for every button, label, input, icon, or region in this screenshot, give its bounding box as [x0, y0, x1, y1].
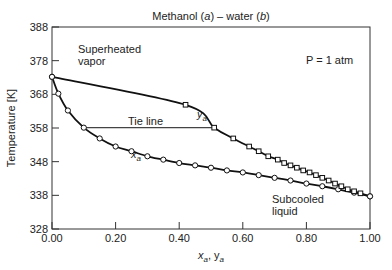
data-point-square — [212, 125, 217, 130]
data-point-circle — [320, 184, 325, 189]
data-point-square — [320, 176, 325, 181]
data-point-circle — [177, 160, 182, 165]
data-point-square — [339, 184, 344, 189]
data-point-square — [314, 173, 319, 178]
y-axis: 328338348358368378388 — [30, 21, 59, 235]
data-point-circle — [288, 178, 293, 183]
x-tick-label: 0.40 — [168, 232, 189, 244]
x-tick-label: 0.20 — [105, 232, 126, 244]
data-point-circle — [81, 125, 86, 130]
tie-line-label: Tie line — [128, 115, 163, 127]
x-tick-label: 1.00 — [359, 232, 380, 244]
data-point-circle — [304, 181, 309, 186]
data-point-square — [295, 165, 300, 170]
data-point-square — [301, 168, 306, 173]
pressure-label: P = 1 atm — [306, 54, 353, 66]
data-point-square — [358, 191, 363, 196]
data-point-circle — [272, 175, 277, 180]
data-point-square — [183, 102, 188, 107]
data-point-square — [247, 144, 252, 149]
y-tick-label: 378 — [30, 55, 48, 67]
data-point-circle — [145, 154, 150, 159]
x-tick-label: 0.80 — [296, 232, 317, 244]
x-tick-label: 0.60 — [232, 232, 253, 244]
data-point-square — [345, 187, 350, 192]
phase-diagram-chart: Methanol (a) – water (b) 328338348358368… — [0, 0, 392, 270]
data-point-square — [333, 181, 338, 186]
x-axis-label: xa, ya — [197, 249, 225, 264]
data-point-square — [288, 163, 293, 168]
data-point-circle — [367, 194, 372, 199]
x-tick-label: 0.00 — [41, 232, 62, 244]
data-point-circle — [65, 108, 70, 113]
y-tick-label: 358 — [30, 122, 48, 134]
y-tick-label: 348 — [30, 156, 48, 168]
data-point-square — [326, 178, 331, 183]
data-point-circle — [224, 168, 229, 173]
x-axis: 0.000.200.400.600.801.00 — [41, 222, 380, 244]
data-point-circle — [240, 170, 245, 175]
data-point-circle — [208, 165, 213, 170]
data-point-circle — [193, 163, 198, 168]
data-point-circle — [56, 91, 61, 96]
data-point-square — [231, 136, 236, 141]
superheated-vapor-label: Superheatedvapor — [78, 43, 141, 67]
data-point-circle — [113, 144, 118, 149]
data-point-square — [275, 157, 280, 162]
y-tick-label: 368 — [30, 88, 48, 100]
y-axis-label: Temperature [K] — [5, 89, 17, 167]
y-tick-label: 338 — [30, 189, 48, 201]
chart-title: Methanol (a) – water (b) — [152, 10, 269, 22]
subcooled-liquid-label: Subcooledliquid — [272, 193, 324, 217]
data-point-circle — [129, 149, 134, 154]
data-point-square — [266, 154, 271, 159]
data-series — [49, 74, 372, 199]
data-point-square — [352, 189, 357, 194]
data-point-square — [256, 149, 261, 154]
data-point-circle — [49, 74, 54, 79]
data-point-square — [307, 170, 312, 175]
data-point-square — [282, 161, 287, 166]
data-point-circle — [161, 157, 166, 162]
y-tick-label: 388 — [30, 21, 48, 33]
data-point-circle — [97, 136, 102, 141]
data-point-circle — [256, 173, 261, 178]
